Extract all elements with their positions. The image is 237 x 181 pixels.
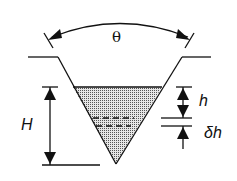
h-label: h <box>199 92 208 110</box>
h-dimension <box>161 87 192 149</box>
arrowhead-right-icon <box>176 29 190 40</box>
H-label: H <box>21 116 33 134</box>
delta-h-label: δh <box>204 124 222 142</box>
liquid-fill <box>73 87 162 163</box>
arrowhead-left-icon <box>48 29 62 40</box>
theta-label: θ <box>112 28 121 46</box>
